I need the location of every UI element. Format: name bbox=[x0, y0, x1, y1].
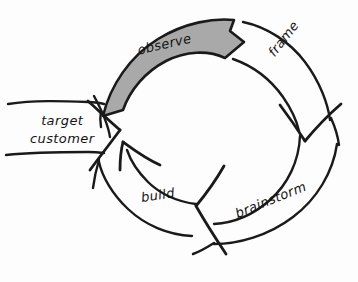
target-customer-label-line1: target bbox=[30, 112, 94, 130]
observe-tail-tick bbox=[100, 111, 101, 127]
target-customer-label: target customer bbox=[30, 112, 94, 148]
brainstorm-tail-tick bbox=[193, 243, 214, 254]
banner-arrowhead-lower bbox=[90, 130, 120, 170]
build-arrowhead-b bbox=[120, 142, 123, 170]
brainstorm-arrowhead-lower bbox=[196, 206, 226, 254]
frame-outer-tick bbox=[331, 118, 339, 145]
frame-inner-edge bbox=[233, 59, 299, 131]
frame-arrowhead-right bbox=[305, 104, 341, 141]
diagram-canvas: observe frame brainstorm build target cu… bbox=[0, 0, 358, 282]
banner-bottom-edge bbox=[6, 152, 104, 155]
brainstorm-arrowhead-upper bbox=[196, 166, 224, 206]
target-customer-label-line2: customer bbox=[30, 130, 94, 148]
